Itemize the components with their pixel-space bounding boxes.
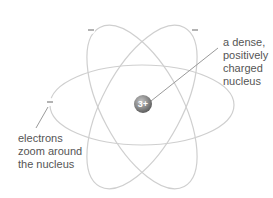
electron-leader-line <box>36 107 48 128</box>
nucleus-charge: 3+ <box>133 98 153 110</box>
nucleus-label: a dense, positively charged nucleus <box>223 36 268 88</box>
nucleus-leader-line <box>151 48 218 101</box>
electrons-label: electrons zoom around the nucleus <box>18 132 82 171</box>
